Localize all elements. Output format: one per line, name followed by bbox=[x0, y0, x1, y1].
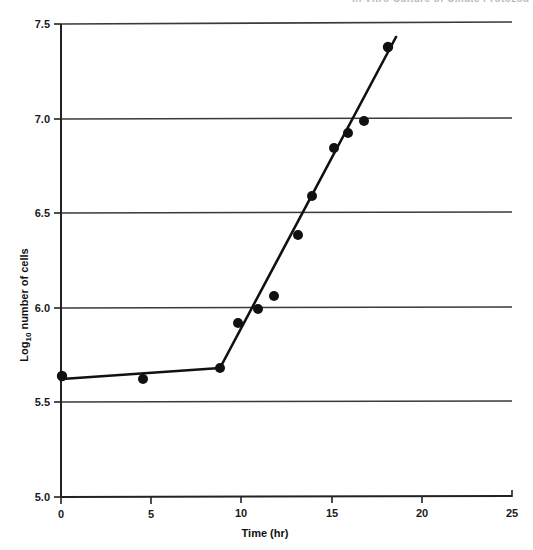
data-point bbox=[359, 116, 369, 126]
y-tick-labels: 7.5 7.0 6.5 6.0 5.5 5.0 bbox=[35, 18, 50, 503]
x-tick-labels: 0 5 10 15 20 25 bbox=[58, 507, 518, 520]
x-tick-label-20: 20 bbox=[416, 507, 428, 519]
y-tick-label-6-5: 6.5 bbox=[35, 207, 50, 219]
gridline-5-5 bbox=[61, 401, 512, 402]
chart-screenshot: In Vitro Culture of Ciliate Protozoa bbox=[0, 0, 533, 550]
data-point bbox=[138, 374, 148, 384]
gridline-7-5 bbox=[61, 22, 512, 24]
axes bbox=[61, 24, 512, 497]
gridlines bbox=[61, 22, 512, 402]
data-point bbox=[343, 128, 353, 138]
x-tick-label-0: 0 bbox=[58, 508, 64, 520]
data-point bbox=[253, 304, 263, 314]
x-tick-label-25: 25 bbox=[506, 507, 518, 519]
exponential-phase-line bbox=[220, 37, 396, 368]
y-axis-title-main: number of cells bbox=[18, 248, 30, 332]
fit-lines bbox=[62, 37, 396, 379]
data-point bbox=[215, 363, 225, 373]
data-point bbox=[57, 371, 67, 381]
gridline-7-0 bbox=[61, 118, 512, 119]
x-tick-label-15: 15 bbox=[326, 507, 338, 519]
y-tick-label-7-5: 7.5 bbox=[35, 18, 50, 30]
data-point bbox=[269, 291, 279, 301]
data-point bbox=[307, 191, 317, 201]
y-tick-label-5-5: 5.5 bbox=[35, 396, 50, 408]
gridline-6-5 bbox=[61, 212, 512, 213]
growth-curve-plot: 7.5 7.0 6.5 6.0 5.5 5.0 0 5 10 15 20 25 … bbox=[0, 0, 533, 550]
y-axis-title-prefix: Log bbox=[18, 342, 30, 362]
svg-text:Log10 number of cells: Log10 number of cells bbox=[18, 248, 33, 361]
data-point bbox=[383, 42, 393, 52]
y-tick-marks bbox=[54, 24, 61, 497]
y-tick-label-5-0: 5.0 bbox=[35, 491, 50, 503]
data-point bbox=[293, 230, 303, 240]
x-tick-label-10: 10 bbox=[235, 507, 247, 519]
y-tick-label-6-0: 6.0 bbox=[35, 302, 50, 314]
gridline-6-0 bbox=[61, 307, 512, 308]
data-point bbox=[233, 318, 243, 328]
y-tick-label-7-0: 7.0 bbox=[35, 113, 50, 125]
y-axis-title: Log10 number of cells bbox=[18, 248, 33, 361]
data-point bbox=[329, 143, 339, 153]
x-axis-line bbox=[61, 496, 512, 497]
x-tick-label-5: 5 bbox=[148, 508, 154, 520]
x-axis-title: Time (hr) bbox=[242, 527, 289, 539]
